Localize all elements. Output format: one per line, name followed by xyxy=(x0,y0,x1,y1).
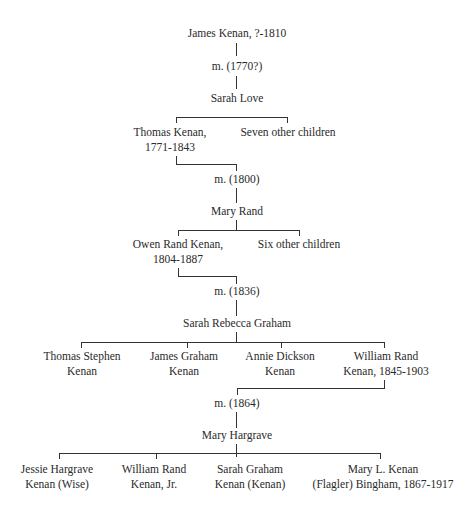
child-jessie-hargrave-kenan: Jessie Hargrave Kenan (Wise) xyxy=(21,462,93,492)
marriage-label-1770: m. (1770?) xyxy=(212,59,262,74)
connector-line xyxy=(236,43,237,56)
spouse-mary-rand: Mary Rand xyxy=(211,204,263,219)
child-six-other-children: Six other children xyxy=(258,237,340,252)
connector-line xyxy=(176,117,177,123)
connector-line xyxy=(81,342,82,348)
connector-line xyxy=(236,188,237,203)
marriage-label-1864: m. (1864) xyxy=(214,396,259,411)
connector-line xyxy=(237,388,238,395)
connector-line xyxy=(236,220,237,230)
sibling-bracket xyxy=(59,453,381,454)
connector-line xyxy=(384,342,385,348)
child-mary-l-kenan: Mary L. Kenan (Flagler) Bingham, 1867-19… xyxy=(313,462,454,492)
connector-line xyxy=(236,332,237,342)
connector-line xyxy=(178,230,179,236)
child-owen-rand-kenan: Owen Rand Kenan, 1804-1887 xyxy=(133,237,223,267)
connector-line xyxy=(236,412,237,428)
connector-line xyxy=(281,342,282,348)
connector-line xyxy=(176,164,237,165)
connector-line xyxy=(236,300,237,316)
connector-line xyxy=(236,444,237,457)
connector-line xyxy=(237,388,385,389)
child-thomas-stephen-kenan: Thomas Stephen Kenan xyxy=(44,349,121,379)
connector-line xyxy=(299,230,300,236)
connector-line xyxy=(287,117,288,123)
connector-line xyxy=(380,453,381,459)
child-james-graham-kenan: James Graham Kenan xyxy=(150,349,218,379)
child-annie-dickson-kenan: Annie Dickson Kenan xyxy=(245,349,314,379)
connector-line xyxy=(156,453,157,459)
ancestor-james-kenan: James Kenan, ?-1810 xyxy=(188,26,287,41)
connector-line xyxy=(59,453,60,459)
connector-line xyxy=(178,276,237,277)
marriage-label-1836: m. (1836) xyxy=(214,284,259,299)
child-sarah-graham-kenan: Sarah Graham Kenan (Kenan) xyxy=(215,462,286,492)
sibling-bracket xyxy=(176,117,288,118)
child-william-rand-kenan: William Rand Kenan, 1845-1903 xyxy=(343,349,429,379)
family-tree-diagram: James Kenan, ?-1810 m. (1770?) Sarah Lov… xyxy=(0,0,471,518)
spouse-sarah-love: Sarah Love xyxy=(211,91,264,106)
spouse-mary-hargrave: Mary Hargrave xyxy=(202,428,272,443)
child-thomas-kenan: Thomas Kenan, 1771-1843 xyxy=(134,125,207,155)
marriage-label-1800: m. (1800) xyxy=(214,172,259,187)
child-william-rand-kenan-jr: William Rand Kenan, Jr. xyxy=(122,462,186,492)
connector-line xyxy=(236,276,237,284)
connector-line xyxy=(236,76,237,89)
child-seven-other-children: Seven other children xyxy=(240,125,335,140)
connector-line xyxy=(236,164,237,171)
spouse-sarah-rebecca-graham: Sarah Rebecca Graham xyxy=(183,316,291,331)
connector-line xyxy=(187,342,188,348)
sibling-bracket xyxy=(81,342,385,343)
sibling-bracket xyxy=(178,230,300,231)
